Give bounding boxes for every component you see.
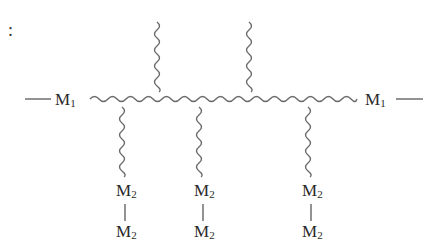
lower-branch-1 [120,107,126,177]
m2-bottom-label: M2 [194,222,215,241]
m2-top-label: M2 [116,181,137,200]
graft-copolymer-diagram: : M1 M1 M2 M2 M2 M2 M2 M2 [0,0,444,251]
m2-bottom-label: M2 [302,222,323,241]
left-m1-label: M1 [55,90,76,109]
right-m1-label: M1 [365,90,386,109]
m2-group-2: M2 M2 [194,181,215,241]
upper-branch-2 [247,22,253,92]
m2-top-label: M2 [302,181,323,200]
upper-branch-1 [155,22,161,92]
m2-top-label: M2 [194,181,215,200]
lower-branch-3 [306,107,312,177]
m2-group-1: M2 M2 [116,181,137,241]
m2-bottom-label: M2 [116,222,137,241]
backbone-wavy-chain [90,97,357,102]
lower-branch-2 [197,107,203,177]
leading-colon: : [8,20,13,40]
m2-group-3: M2 M2 [302,181,323,241]
